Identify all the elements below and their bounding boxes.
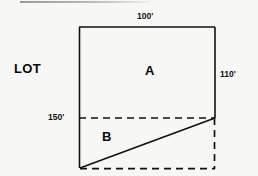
dimension-label-right: 110' [220, 70, 236, 79]
dimension-label-top: 100' [137, 12, 153, 21]
lot-diagram: LOT 100' 110' 150' A B [0, 0, 258, 176]
lot-shape-svg [0, 0, 258, 176]
diagonal-edge-line [80, 118, 215, 168]
dimension-label-left: 150' [48, 113, 64, 122]
region-label-a: A [145, 64, 154, 77]
lot-title-label: LOT [14, 62, 41, 75]
region-label-b: B [102, 130, 111, 143]
